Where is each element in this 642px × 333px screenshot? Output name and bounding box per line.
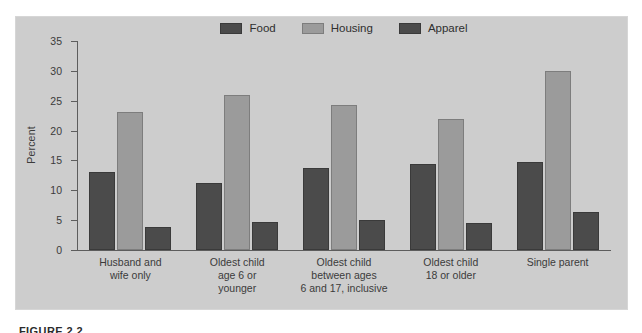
figure-caption: FIGURE 2.2 — [19, 325, 83, 333]
bar-food — [89, 172, 115, 250]
bar-apparel — [252, 222, 278, 250]
y-axis-tick: 30 — [71, 71, 77, 72]
y-axis-tick-label: 10 — [50, 185, 62, 196]
y-axis-line — [77, 41, 78, 250]
bar-housing — [331, 105, 357, 250]
y-axis-tick: 25 — [71, 101, 77, 102]
bar-group — [89, 41, 171, 250]
legend-swatch-apparel — [399, 23, 421, 34]
y-axis-tick: 15 — [71, 160, 77, 161]
y-axis-tick-label: 5 — [56, 215, 62, 226]
legend-item-apparel: Apparel — [399, 22, 468, 34]
figure-panel: Food Housing Apparel Percent 05101520253… — [15, 16, 628, 310]
bar-housing — [545, 71, 571, 250]
y-axis-tick-label: 15 — [50, 155, 62, 166]
bar-group — [303, 41, 385, 250]
legend-item-housing: Housing — [302, 22, 373, 34]
bar-food — [410, 164, 436, 250]
x-axis-label: Oldest child 18 or older — [396, 256, 506, 282]
legend-label-food: Food — [249, 22, 275, 34]
y-axis-tick-label: 0 — [56, 245, 62, 256]
legend-swatch-housing — [302, 23, 324, 34]
bar-apparel — [573, 212, 599, 250]
bar-food — [196, 183, 222, 250]
chart-legend: Food Housing Apparel — [77, 22, 611, 34]
bar-housing — [438, 119, 464, 250]
y-axis-tick-label: 20 — [50, 125, 62, 136]
y-axis-tick: 10 — [71, 190, 77, 191]
legend-label-apparel: Apparel — [428, 22, 468, 34]
y-axis-tick-label: 25 — [50, 95, 62, 106]
bar-housing — [224, 95, 250, 250]
bar-food — [517, 162, 543, 250]
x-axis-label: Oldest child age 6 or younger — [182, 256, 292, 295]
y-axis-title: Percent — [25, 126, 37, 164]
legend-swatch-food — [220, 23, 242, 34]
x-axis-line — [77, 250, 611, 251]
x-axis-label: Oldest child between ages 6 and 17, incl… — [289, 256, 399, 295]
y-axis-tick-label: 35 — [50, 36, 62, 47]
bar-apparel — [145, 227, 171, 250]
y-axis-tick: 20 — [71, 131, 77, 132]
plot-area: Percent 05101520253035 Husband and wife … — [77, 41, 611, 250]
y-axis-tick: 35 — [71, 41, 77, 42]
bar-apparel — [359, 220, 385, 250]
bar-group — [196, 41, 278, 250]
bar-group — [517, 41, 599, 250]
y-axis-tick: 5 — [71, 220, 77, 221]
y-axis-tick: 0 — [71, 250, 77, 251]
bar-housing — [117, 112, 143, 250]
legend-label-housing: Housing — [331, 22, 373, 34]
bar-group — [410, 41, 492, 250]
x-axis-label: Single parent — [503, 256, 613, 269]
bar-apparel — [466, 223, 492, 250]
bar-food — [303, 168, 329, 250]
y-axis-tick-label: 30 — [50, 66, 62, 77]
x-axis-label: Husband and wife only — [75, 256, 185, 282]
legend-item-food: Food — [220, 22, 275, 34]
